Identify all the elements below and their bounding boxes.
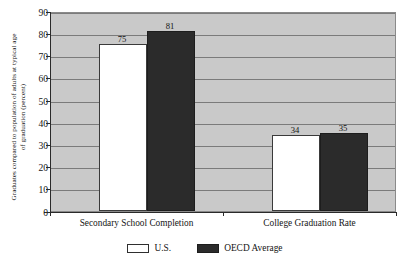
y-tick-mark — [46, 101, 50, 102]
y-tick-label-60: 60 — [0, 74, 48, 84]
bar-us-college-graduation-rate — [272, 135, 320, 211]
y-tick-mark — [46, 189, 50, 190]
y-axis-line — [50, 12, 51, 213]
legend-label-us: U.S. — [154, 244, 171, 253]
bar-value-us-secondary: 75 — [98, 35, 146, 44]
x-tick-mark — [396, 212, 397, 216]
bar-value-oecd-secondary: 81 — [146, 22, 194, 31]
legend: U.S. OECD Average — [0, 244, 410, 253]
gridline — [51, 13, 395, 14]
y-tick-label-0: 0 — [0, 208, 48, 218]
y-tick-label-10: 10 — [0, 185, 48, 195]
x-tick-mark — [50, 212, 51, 216]
y-tick-label-50: 50 — [0, 97, 48, 107]
x-axis-line — [44, 212, 396, 213]
y-tick-mark — [46, 12, 50, 13]
legend-swatch-icon-us — [127, 244, 149, 253]
bar-value-us-college: 34 — [271, 126, 319, 135]
bar-us-secondary-school-completion — [99, 44, 147, 211]
legend-swatch-icon-oecd-average — [197, 244, 219, 253]
y-tick-mark — [46, 34, 50, 35]
bar-oecd-secondary-school-completion — [147, 31, 195, 211]
y-tick-mark — [46, 56, 50, 57]
x-category-label-college-graduation-rate: College Graduation Rate — [223, 218, 396, 228]
y-tick-mark — [46, 167, 50, 168]
y-tick-mark — [46, 78, 50, 79]
legend-label-oecd-average: OECD Average — [224, 244, 282, 253]
x-category-label-secondary-school-completion: Secondary School Completion — [50, 218, 223, 228]
y-tick-label-70: 70 — [0, 52, 48, 62]
legend-item-us: U.S. — [127, 244, 171, 253]
bar-value-oecd-college: 35 — [319, 124, 367, 133]
bar-chart: Graduates compared to population of adul… — [0, 0, 410, 266]
y-tick-label-40: 40 — [0, 119, 48, 129]
y-tick-label-90: 90 — [0, 8, 48, 18]
legend-item-oecd-average: OECD Average — [197, 244, 282, 253]
y-tick-label-80: 80 — [0, 30, 48, 40]
y-tick-label-30: 30 — [0, 141, 48, 151]
y-tick-label-20: 20 — [0, 163, 48, 173]
y-tick-mark — [46, 123, 50, 124]
x-tick-mark — [223, 212, 224, 216]
y-tick-mark — [46, 145, 50, 146]
bar-oecd-college-graduation-rate — [320, 133, 368, 211]
